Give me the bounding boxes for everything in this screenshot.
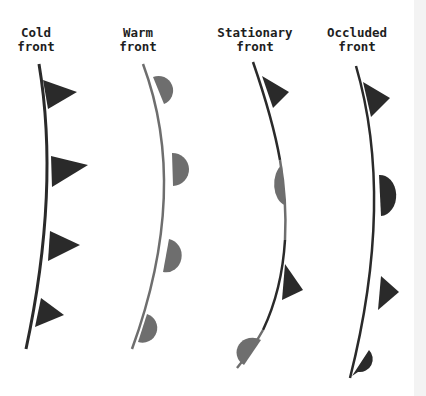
- warm-semicircle-icon: [138, 314, 157, 343]
- warm-semicircle-icon: [163, 239, 182, 272]
- warm-semicircle-icon: [153, 76, 173, 104]
- warm-front-symbol: [132, 64, 189, 349]
- cold-front-symbol: [26, 64, 88, 349]
- cold-triangle-icon: [51, 156, 88, 187]
- stationary-semicircle-icon: [274, 165, 285, 205]
- occluded-front-symbol: [350, 66, 399, 378]
- cold-triangle-icon: [43, 80, 77, 109]
- cold-triangle-icon: [35, 298, 64, 327]
- stationary-front-symbol: [237, 62, 303, 368]
- stationary-triangle-icon: [282, 264, 303, 300]
- warm-semicircle-icon: [172, 153, 189, 186]
- cold-triangle-icon: [48, 231, 80, 261]
- fronts-diagram: [0, 0, 426, 396]
- stationary-semicircle-icon: [237, 338, 261, 365]
- occluded-semicircle-icon: [379, 175, 396, 216]
- occluded-triangle-icon: [378, 276, 399, 310]
